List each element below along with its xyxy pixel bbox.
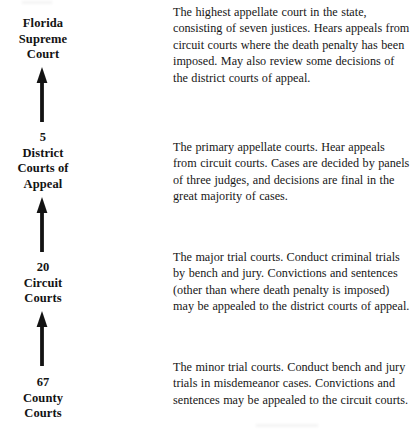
up-arrow-icon [31,196,53,252]
level-label-county-courts: 67 County Courts [0,375,86,422]
level-label-circuit-courts: 20 Circuit Courts [0,260,86,307]
level-label-line: Florida [0,16,86,32]
level-label-line: Circuit [0,276,86,292]
level-label-line: Supreme [0,32,86,48]
level-description-supreme-court: The highest appellate court in the state… [173,4,411,86]
level-label-line: County [0,391,86,407]
level-label-line: Courts [0,406,86,422]
level-label-line: Courts [0,291,86,307]
level-count: 67 [0,375,86,391]
level-count: 5 [0,130,86,146]
level-count: 20 [0,260,86,276]
level-label-line: Courts of [0,161,86,177]
up-arrow-icon [31,66,53,122]
level-label-line: Court [0,47,86,63]
level-label-supreme-court: Florida Supreme Court [0,16,86,63]
level-description-county-courts: The minor trial courts. Conduct bench an… [173,359,411,408]
level-label-line: District [0,146,86,162]
level-description-district-courts-of-appeal: The primary appellate courts. Hear appea… [173,139,411,205]
level-label-line: Appeal [0,177,86,193]
level-label-district-courts-of-appeal: 5 District Courts of Appeal [0,130,86,192]
up-arrow-icon [31,310,53,366]
level-description-circuit-courts: The major trial courts. Conduct criminal… [173,249,411,315]
court-hierarchy-diagram: Florida Supreme Court The highest appell… [0,0,415,429]
